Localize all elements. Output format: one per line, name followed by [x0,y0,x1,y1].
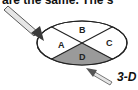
arrow-icon-lower [86,68,112,85]
section-label-b: B [79,25,86,35]
arrow-icon-upper-left [4,6,44,41]
section-label-a: A [58,40,65,50]
section-label-c: C [106,38,113,48]
side-label-3d: 3-D [117,70,136,84]
section-label-d: D [79,52,86,62]
